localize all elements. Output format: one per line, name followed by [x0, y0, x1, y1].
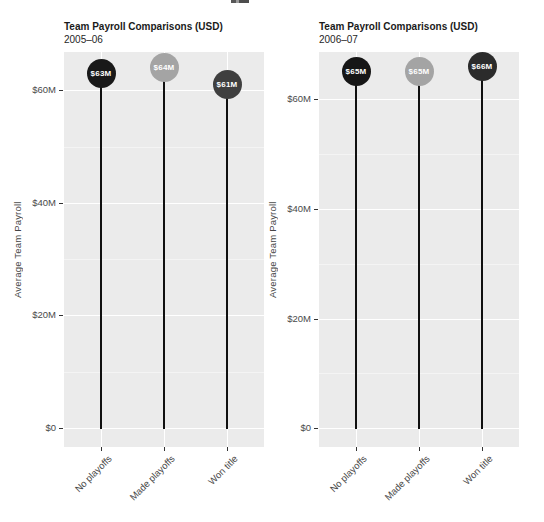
- x-tick-mark: [101, 447, 102, 451]
- bubble-value-label: $66M: [472, 62, 493, 71]
- chart-subtitle: 2006–07: [319, 34, 358, 45]
- y-tick-label: $0: [0, 422, 56, 434]
- x-tick-mark: [356, 447, 357, 451]
- lollipop-bubble: $66M: [468, 52, 497, 81]
- chart-subtitle: 2005–06: [64, 34, 103, 45]
- y-tick-label: $0: [255, 422, 311, 434]
- plot-panel: $63M$64M$61M: [64, 52, 264, 447]
- y-tick-mark: [59, 315, 63, 316]
- x-tick-mark: [164, 447, 165, 451]
- x-tick-mark: [419, 447, 420, 451]
- lollipop-bubble: $65M: [405, 57, 434, 86]
- y-tick-label: $60M: [255, 93, 311, 105]
- x-tick-mark: [227, 447, 228, 451]
- x-tick-mark: [482, 447, 483, 451]
- y-axis-title: Average Team Payroll: [11, 52, 24, 447]
- lollipop-bubble: $65M: [342, 57, 371, 86]
- bubble-value-label: $65M: [409, 67, 430, 76]
- x-tick-label: Won title: [168, 453, 239, 522]
- y-tick-mark: [59, 90, 63, 91]
- x-tick-label: No playoffs: [297, 453, 368, 522]
- bubble-value-label: $61M: [217, 80, 238, 89]
- y-tick-label: $20M: [255, 313, 311, 325]
- lollipop-bubble: $64M: [150, 53, 179, 82]
- plot-panel: $65M$65M$66M: [319, 52, 519, 447]
- x-tick-label: Made playoffs: [105, 453, 176, 522]
- y-tick-mark: [314, 319, 318, 320]
- y-axis-title: Average Team Payroll: [266, 52, 279, 447]
- lollipop-bubble: $61M: [213, 70, 242, 99]
- x-tick-label: Won title: [423, 453, 494, 522]
- chart-title: Team Payroll Comparisons (USD): [64, 21, 223, 32]
- y-tick-label: $60M: [0, 84, 56, 96]
- y-tick-mark: [314, 428, 318, 429]
- lollipop-chart-2006-07: Team Payroll Comparisons (USD) 2006–07 A…: [255, 0, 527, 522]
- bubble-value-label: $63M: [91, 69, 112, 78]
- chart-title: Team Payroll Comparisons (USD): [319, 21, 478, 32]
- x-tick-label: Made playoffs: [360, 453, 431, 522]
- y-tick-label: $20M: [0, 309, 56, 321]
- lollipop-stem: [100, 73, 102, 428]
- y-tick-mark: [59, 428, 63, 429]
- y-tick-mark: [59, 203, 63, 204]
- lollipop-chart-2005-06: Team Payroll Comparisons (USD) 2005–06 A…: [0, 0, 272, 522]
- y-tick-label: $40M: [255, 203, 311, 215]
- lollipop-stem: [481, 66, 483, 429]
- y-tick-label: $40M: [0, 197, 56, 209]
- lollipop-stem: [355, 72, 357, 430]
- bubble-value-label: $65M: [346, 67, 367, 76]
- lollipop-stem: [226, 85, 228, 429]
- y-tick-mark: [314, 209, 318, 210]
- y-tick-mark: [314, 99, 318, 100]
- x-tick-label: No playoffs: [42, 453, 113, 522]
- lollipop-stem: [418, 72, 420, 430]
- lollipop-stem: [163, 68, 165, 429]
- bubble-value-label: $64M: [154, 63, 175, 72]
- lollipop-bubble: $63M: [87, 59, 116, 88]
- figure: Team Payroll Comparisons (USD) 2005–06 A…: [0, 0, 544, 522]
